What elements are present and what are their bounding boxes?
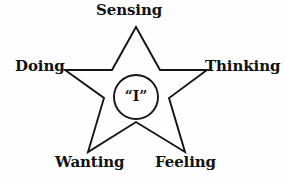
- star-point-label-sensing: Sensing: [96, 3, 162, 18]
- star-point-label-wanting: Wanting: [55, 155, 125, 170]
- star-point-label-thinking: Thinking: [205, 59, 280, 74]
- star-diagram: Sensing Thinking Feeling Wanting Doing “…: [0, 0, 286, 179]
- star-point-label-doing: Doing: [15, 59, 65, 74]
- center-self-label: “I”: [122, 89, 150, 103]
- star-point-label-feeling: Feeling: [155, 155, 216, 170]
